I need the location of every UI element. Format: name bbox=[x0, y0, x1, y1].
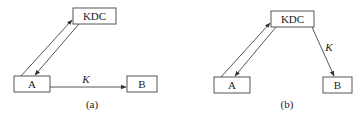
a-label: A bbox=[228, 79, 236, 91]
diagram-b: KDC A B K (b) bbox=[214, 11, 352, 111]
kdc-diagrams: KDC A B K (a) KDC A B K (b) bbox=[0, 0, 362, 120]
key-label: K bbox=[324, 41, 333, 53]
kdc-to-a-arrow bbox=[235, 27, 276, 76]
a-to-kdc-arrow bbox=[21, 20, 72, 76]
kdc-to-a-arrow bbox=[35, 24, 79, 75]
b-label: B bbox=[138, 78, 145, 90]
key-label: K bbox=[81, 73, 90, 85]
caption: (a) bbox=[86, 98, 99, 111]
a-label: A bbox=[28, 78, 36, 90]
caption: (b) bbox=[281, 98, 294, 111]
kdc-label: KDC bbox=[281, 13, 304, 25]
kdc-label: KDC bbox=[83, 10, 106, 22]
b-label: B bbox=[334, 79, 341, 91]
a-to-kdc-arrow bbox=[221, 23, 270, 77]
diagram-a: KDC A B K (a) bbox=[14, 8, 157, 111]
